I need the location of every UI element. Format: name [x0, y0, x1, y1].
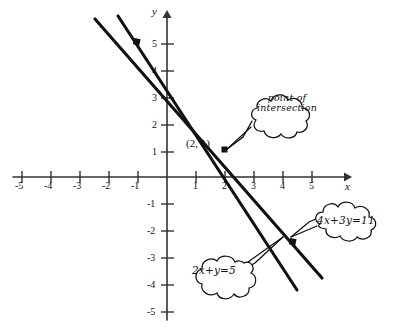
- axes-group: [13, 10, 352, 320]
- x-tick-label-5: 5: [309, 180, 314, 191]
- y-tick-label-neg3: -3: [147, 252, 155, 263]
- y-tick-label-2: 2: [152, 119, 157, 130]
- x-tick-label-neg2: -2: [102, 180, 110, 191]
- y-tick-label-1: 1: [152, 146, 157, 157]
- intersection-point-label: (2, 1): [186, 137, 210, 149]
- callout-text-equation-2x-y-5: 2x+y=5: [186, 265, 242, 276]
- y-tick-label-neg5: -5: [147, 306, 155, 317]
- line-marker-dot: [289, 238, 297, 246]
- x-tick-label-1: 1: [193, 180, 198, 191]
- x-tick-label-4: 4: [280, 180, 285, 191]
- callout-cloud-bubble: [196, 256, 256, 299]
- y-tick-label-5: 5: [152, 38, 157, 49]
- x-tick-label-neg1: -1: [131, 180, 139, 191]
- callout-text-intersection: intersection: [256, 102, 318, 113]
- y-axis-label: y: [152, 5, 157, 17]
- y-tick-label-neg2: -2: [147, 225, 155, 236]
- x-tick-label-neg4: -4: [44, 180, 52, 191]
- x-tick-label-2: 2: [222, 180, 227, 191]
- line-marker-dot: [133, 38, 141, 46]
- y-tick-label-neg1: -1: [147, 198, 155, 209]
- y-axis-arrowhead: [163, 10, 172, 18]
- callout-tail: [291, 226, 317, 237]
- coordinate-plane: [0, 0, 396, 327]
- y-tick-label-3: 3: [152, 92, 157, 103]
- x-axis-label: x: [345, 180, 350, 192]
- callout-text-equation-4x-3y-11: 4x+3y=11: [317, 215, 375, 226]
- callout-tail: [226, 127, 251, 150]
- graph-figure: -5 -4 -3 -2 -1 1 2 3 4 5 5 4 3 2 1 -1 -2…: [0, 0, 396, 327]
- y-tick-label-neg4: -4: [147, 279, 155, 290]
- x-tick-label-neg5: -5: [15, 180, 23, 191]
- x-tick-label-3: 3: [251, 180, 256, 191]
- x-tick-label-neg3: -3: [73, 180, 81, 191]
- y-tick-label-4: 4: [152, 65, 157, 76]
